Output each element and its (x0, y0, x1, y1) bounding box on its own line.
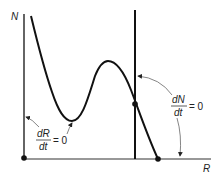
equilibrium-point (132, 101, 138, 107)
prey-isocline-label: dR dt = 0 (36, 128, 68, 152)
prey-isocline-arrow-to-axis (26, 117, 39, 127)
predator-isocline-label: dN dt = 0 (171, 94, 204, 118)
predator-isocline-arrow-to-line (138, 76, 172, 95)
prey-isocline-arrow-to-curve (67, 123, 72, 134)
carrying-capacity-point (155, 156, 161, 162)
predator-label-numerator: dN (172, 94, 186, 105)
prey-label-equals: = 0 (53, 135, 68, 146)
prey-isocline-curve (31, 16, 158, 159)
x-axis-label: R (203, 163, 210, 174)
predator-isocline-arrow-to-axis (177, 118, 181, 156)
y-axis-label: N (11, 11, 19, 22)
origin-point (21, 155, 27, 161)
predator-label-denominator: dt (174, 107, 184, 118)
predator-label-equals: = 0 (189, 101, 204, 112)
isocline-diagram: N R dR dt = 0 dN dt = 0 (0, 0, 221, 178)
prey-label-numerator: dR (37, 128, 50, 139)
prey-label-denominator: dt (39, 141, 49, 152)
